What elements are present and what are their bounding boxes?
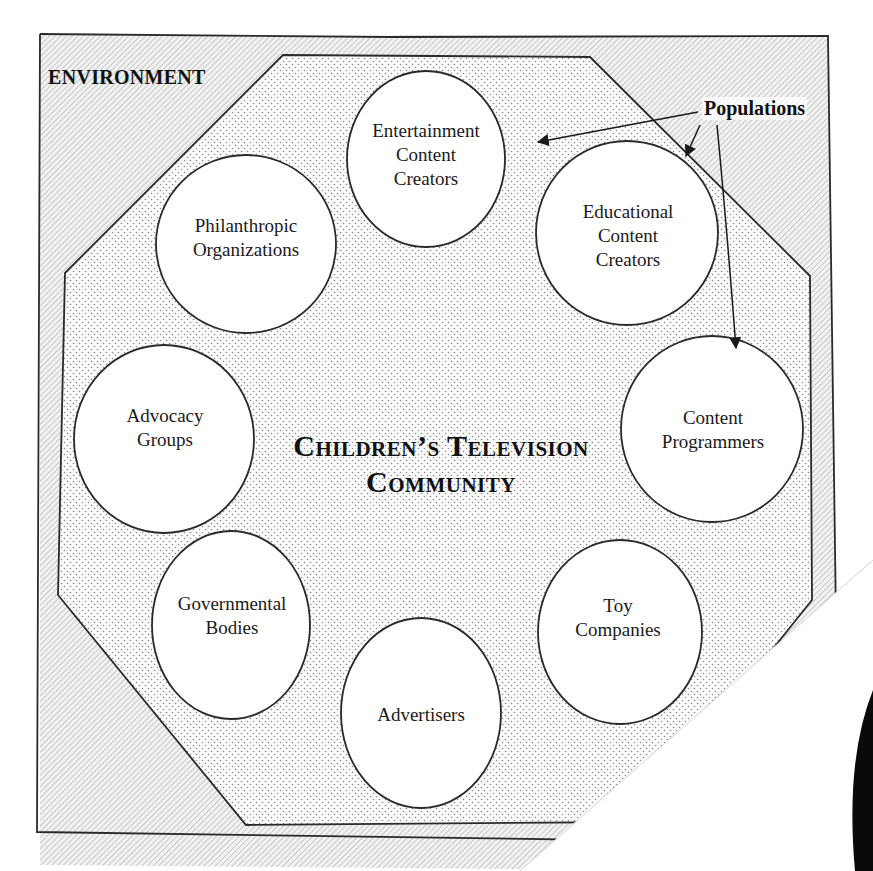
node-label-line: Groups [126, 428, 203, 452]
node-label-line: Bodies [178, 616, 287, 640]
node-label-line: Philanthropic [193, 214, 299, 238]
environment-label: ENVIRONMENT [48, 66, 206, 89]
node-advertisers: Advertisers [377, 703, 465, 727]
node-label-line: Creators [583, 248, 674, 272]
populations-label: Populations [702, 97, 807, 120]
node-advocacy-groups: Advocacy Groups [126, 404, 203, 452]
community-title-line2: Community [293, 464, 589, 500]
node-label-line: Advocacy [126, 404, 203, 428]
node-toy-companies: Toy Companies [575, 594, 661, 642]
node-label-line: Content [662, 406, 764, 430]
node-label-line: Companies [575, 618, 661, 642]
node-label-line: Entertainment [372, 119, 480, 143]
node-label-line: Governmental [178, 592, 287, 616]
node-label-line: Advertisers [377, 703, 465, 727]
node-label-line: Content [583, 224, 674, 248]
node-label-line: Educational [583, 200, 674, 224]
node-content-programmers: Content Programmers [662, 406, 764, 454]
node-label-line: Creators [372, 167, 480, 191]
node-label-line: Content [372, 143, 480, 167]
community-title: Children’s Television Community [293, 428, 589, 500]
node-label-line: Toy [575, 594, 661, 618]
community-title-line1: Children’s Television [293, 428, 589, 464]
node-philanthropic-organizations: Philanthropic Organizations [193, 214, 299, 262]
node-label-line: Programmers [662, 430, 764, 454]
node-governmental-bodies: Governmental Bodies [178, 592, 287, 640]
node-label-line: Organizations [193, 238, 299, 262]
node-educational-content-creators: Educational Content Creators [583, 200, 674, 272]
node-entertainment-content-creators: Entertainment Content Creators [372, 119, 480, 191]
